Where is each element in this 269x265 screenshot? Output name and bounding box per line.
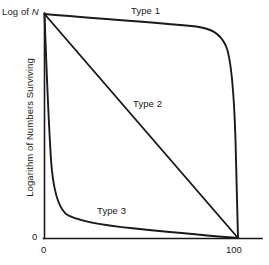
x-axis-tick-label-100: 100: [226, 244, 242, 255]
y-axis-zero-label: 0: [32, 231, 37, 242]
curve-label-type-3: Type 3: [97, 205, 126, 216]
x-axis-tick-label-0: 0: [41, 244, 46, 255]
chart-canvas: [0, 0, 269, 265]
curve-label-type-2: Type 2: [133, 98, 162, 109]
y-axis-max-label-text: Log of: [2, 6, 32, 17]
curve-type-2: [45, 14, 239, 238]
survivorship-curve-figure: Log of N 0 Logarithm of Numbers Survivin…: [0, 0, 269, 265]
y-axis-title: Logarithm of Numbers Surviving: [24, 43, 35, 213]
y-axis-max-label-symbol: N: [32, 6, 39, 17]
curve-label-type-1: Type 1: [131, 5, 160, 16]
y-axis-max-label: Log of N: [2, 6, 39, 17]
